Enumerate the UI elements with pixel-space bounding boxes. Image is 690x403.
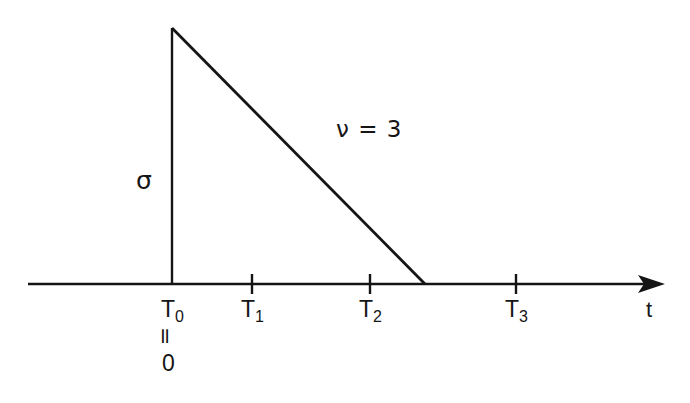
stress-decay-line bbox=[172, 28, 425, 284]
tick-label-t0: T0 bbox=[161, 298, 184, 325]
tick-label-t2-base: T bbox=[359, 296, 373, 322]
t0-equals-symbol: = bbox=[154, 327, 176, 345]
t0-value-zero: 0 bbox=[162, 352, 175, 375]
tick-label-t3: T3 bbox=[505, 298, 528, 325]
time-axis-label: t bbox=[646, 299, 652, 321]
figure-canvas: σ ν = 3 T0 T1 T2 T3 = 0 t bbox=[0, 0, 690, 403]
tick-label-t3-base: T bbox=[505, 296, 519, 322]
tick-label-t1-base: T bbox=[241, 296, 255, 322]
tick-label-t1: T1 bbox=[241, 298, 264, 325]
tick-label-t1-subscript: 1 bbox=[255, 308, 264, 325]
tick-label-t3-subscript: 3 bbox=[519, 308, 528, 325]
tick-label-t2-subscript: 2 bbox=[373, 308, 382, 325]
diagram-svg bbox=[0, 0, 690, 403]
tick-label-t0-subscript: 0 bbox=[175, 308, 184, 325]
nu-equals-3-label: ν = 3 bbox=[336, 118, 402, 141]
tick-label-t2: T2 bbox=[359, 298, 382, 325]
tick-label-t0-base: T bbox=[161, 296, 175, 322]
stress-axis-label: σ bbox=[136, 168, 152, 193]
